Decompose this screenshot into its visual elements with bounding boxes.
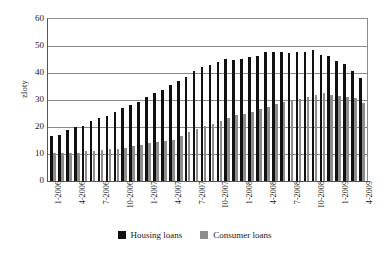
bar-housing-loans	[82, 126, 85, 181]
bar-group	[49, 19, 57, 181]
bar-consumer-loans	[180, 136, 183, 181]
bar-housing-loans	[327, 56, 330, 181]
bar-housing-loans	[129, 105, 132, 181]
bar-housing-loans	[169, 85, 172, 181]
bar-consumer-loans	[109, 149, 112, 181]
bar-housing-loans	[201, 67, 204, 181]
x-tick-label: 1-2006	[54, 181, 63, 227]
bar-consumer-loans	[315, 95, 318, 181]
x-tick-label: 10-2006	[126, 181, 135, 227]
y-tick-label: 40	[20, 68, 44, 77]
bar-consumer-loans	[275, 104, 278, 181]
bar-housing-loans	[304, 52, 307, 181]
bar-group	[287, 19, 295, 181]
bar-housing-loans	[351, 71, 354, 181]
bar-group	[176, 19, 184, 181]
bar-group	[255, 19, 263, 181]
legend-item: Consumer loans	[200, 230, 271, 240]
bar-group	[89, 19, 97, 181]
bar-consumer-loans	[117, 149, 120, 181]
bar-housing-loans	[312, 50, 315, 181]
bar-consumer-loans	[61, 153, 64, 181]
bar-group	[160, 19, 168, 181]
bar-consumer-loans	[227, 118, 230, 181]
bar-consumer-loans	[330, 95, 333, 181]
legend-item: Housing loans	[118, 230, 183, 240]
bar-group	[263, 19, 271, 181]
bar-consumer-loans	[362, 103, 365, 181]
bar-group	[128, 19, 136, 181]
bar-housing-loans	[240, 59, 243, 181]
bar-housing-loans	[217, 62, 220, 181]
bar-group	[279, 19, 287, 181]
bar-consumer-loans	[307, 97, 310, 181]
bar-housing-loans	[232, 60, 235, 182]
x-tick-label: 1-2009	[341, 181, 350, 227]
bar-group	[184, 19, 192, 181]
bar-consumer-loans	[204, 126, 207, 181]
x-tick-label: 4-2007	[174, 181, 183, 227]
bar-group	[168, 19, 176, 181]
bar-consumer-loans	[85, 151, 88, 181]
bar-group	[207, 19, 215, 181]
bar-group	[271, 19, 279, 181]
bar-consumer-loans	[196, 129, 199, 181]
legend-label: Housing loans	[131, 230, 183, 240]
bar-group	[310, 19, 318, 181]
bar-housing-loans	[256, 56, 259, 181]
x-axis-ticks: 1-20064-20067-200610-20061-20074-20077-2…	[47, 181, 366, 227]
bar-consumer-loans	[283, 102, 286, 181]
x-tick-label: 7-2006	[102, 181, 111, 227]
bar-group	[192, 19, 200, 181]
bar-consumer-loans	[69, 153, 72, 181]
bar-group	[120, 19, 128, 181]
bar-group	[104, 19, 112, 181]
bar-group	[231, 19, 239, 181]
bar-consumer-loans	[338, 96, 341, 181]
x-tick-label: 1-2007	[150, 181, 159, 227]
bar-group	[57, 19, 65, 181]
bar-consumer-loans	[291, 101, 294, 181]
x-tick-label: 10-2008	[317, 181, 326, 227]
bar-housing-loans	[145, 97, 148, 181]
bar-consumer-loans	[251, 112, 254, 181]
y-tick-label: 0	[20, 176, 44, 185]
x-tick-label: 10-2007	[221, 181, 230, 227]
bar-housing-loans	[320, 55, 323, 181]
x-tick-label: 4-2009	[365, 181, 374, 227]
legend-swatch-icon	[200, 231, 208, 239]
x-tick-label: 7-2008	[293, 181, 302, 227]
bar-group	[65, 19, 73, 181]
bar-consumer-loans	[267, 107, 270, 181]
bar-housing-loans	[296, 52, 299, 181]
x-tick-label: 7-2007	[198, 181, 207, 227]
bar-consumer-loans	[212, 124, 215, 181]
bar-housing-loans	[153, 93, 156, 181]
bar-group	[342, 19, 350, 181]
bar-housing-loans	[98, 118, 101, 181]
bar-consumer-loans	[164, 141, 167, 182]
bar-group	[215, 19, 223, 181]
bar-housing-loans	[137, 102, 140, 181]
y-axis-ticks: 0102030405060	[18, 0, 44, 253]
bar-housing-loans	[90, 121, 93, 181]
bar-housing-loans	[335, 61, 338, 181]
bar-housing-loans	[193, 71, 196, 181]
bar-housing-loans	[114, 112, 117, 181]
bar-housing-loans	[359, 78, 362, 181]
x-tick-label: 4-2006	[78, 181, 87, 227]
bar-consumer-loans	[77, 153, 80, 181]
bar-group	[303, 19, 311, 181]
bar-housing-loans	[177, 81, 180, 181]
x-tick-label: 1-2008	[245, 181, 254, 227]
bar-group	[223, 19, 231, 181]
bar-housing-loans	[280, 52, 283, 181]
bar-consumer-loans	[132, 146, 135, 181]
legend-swatch-icon	[118, 231, 126, 239]
bar-housing-loans	[185, 77, 188, 181]
bar-group	[295, 19, 303, 181]
bar-housing-loans	[272, 52, 275, 181]
bar-consumer-loans	[243, 114, 246, 181]
bar-group	[326, 19, 334, 181]
bar-chart: zloty 0102030405060 1-20064-20067-200610…	[0, 0, 389, 253]
